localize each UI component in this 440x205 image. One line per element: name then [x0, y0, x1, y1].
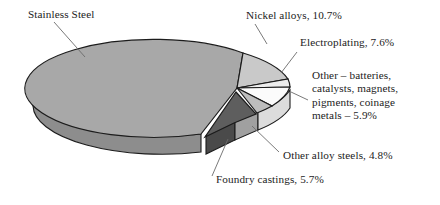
leader-line-other-batteries	[291, 92, 308, 100]
leader-line-other-alloy-steels	[252, 126, 279, 152]
slice-label-other-batteries: Other – batteries, catalysts, magnets, p…	[312, 69, 440, 123]
slice-label-nickel-alloys: Nickel alloys, 10.7%	[246, 9, 342, 22]
slice-label-other-alloy-steels: Other alloy steels, 4.8%	[283, 149, 393, 162]
slice-label-other-batteries-line3: pigments, coinage	[312, 96, 440, 109]
pie-chart: Stainless Steel Nickel alloys, 10.7% Ele…	[0, 0, 440, 205]
slice-label-other-batteries-line2: catalysts, magnets,	[312, 82, 440, 95]
slice-label-stainless-steel: Stainless Steel	[28, 8, 94, 21]
slice-label-other-batteries-line4: metals – 5.9%	[312, 109, 440, 122]
slice-label-electroplating: Electroplating, 7.6%	[300, 36, 394, 49]
leader-line-nickel-alloys	[255, 24, 267, 44]
slice-label-other-batteries-line1: Other – batteries,	[312, 69, 440, 82]
leader-line-electroplating	[281, 52, 297, 73]
slice-label-foundry-castings: Foundry castings, 5.7%	[216, 173, 324, 186]
